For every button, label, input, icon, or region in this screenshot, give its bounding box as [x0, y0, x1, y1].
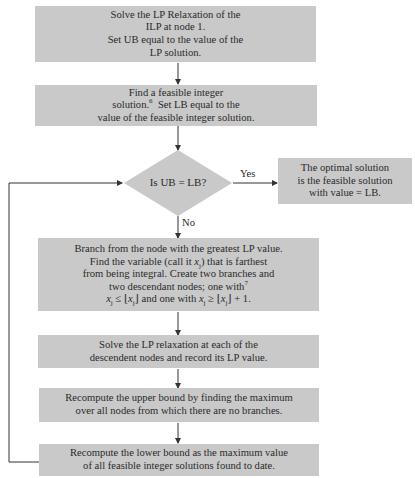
step2-box: Find a feasible integer solution.6 Set L… [35, 85, 317, 126]
step3-line2: Find the variable (call it xj) that is f… [90, 256, 267, 269]
step2-line2: solution.6 Set LB equal to the [112, 99, 239, 112]
yes-label: Yes [240, 168, 255, 179]
no-label: No [182, 217, 195, 228]
decision-label: Is UB = LB? [124, 176, 232, 188]
footnote-marker: 6 [149, 98, 153, 106]
footnote-marker: 7 [244, 279, 248, 287]
step4-box: Solve the LP relaxation at each of the d… [38, 335, 319, 368]
step1-box: Solve the LP Relaxation of the ILP at no… [35, 6, 316, 62]
step5-box: Recompute the upper bound by finding the… [39, 388, 319, 422]
step6-box: Recompute the lower bound as the maximum… [39, 444, 319, 476]
branch-conditions: xj ≤ ⌊xj⌋ and one with xj ≥ ⌊xj⌋ + 1. [106, 293, 251, 306]
step3-line4: two descendant nodes; one with7 [109, 281, 248, 294]
step3-box: Branch from the node with the greatest L… [38, 238, 319, 311]
result-box: The optimal solution is the feasible sol… [278, 158, 412, 204]
